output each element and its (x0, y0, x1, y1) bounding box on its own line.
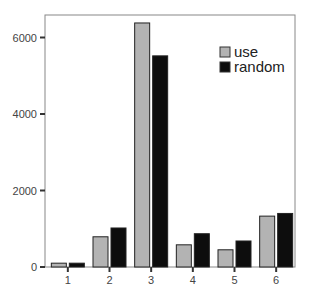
x-tick-label: 1 (65, 274, 71, 286)
x-tick-label: 2 (106, 274, 112, 286)
x-tick-label: 6 (273, 274, 279, 286)
x-tick-label: 4 (190, 274, 196, 286)
bar-random-6 (278, 213, 293, 267)
legend-swatch-random (220, 62, 230, 72)
bar-random-3 (153, 56, 168, 267)
x-tick-label: 5 (231, 274, 237, 286)
bar-use-2 (93, 237, 108, 267)
bar-use-5 (218, 250, 233, 267)
bar-random-2 (111, 228, 126, 267)
legend-label-random: random (234, 58, 285, 75)
bar-use-6 (260, 216, 275, 267)
bar-use-1 (51, 263, 66, 267)
legend-swatch-use (220, 47, 230, 57)
y-axis: 0200040006000 (13, 32, 45, 274)
bar-random-4 (194, 234, 209, 267)
y-tick-label: 2000 (13, 185, 37, 197)
bar-use-4 (176, 245, 191, 267)
bar-use-3 (135, 23, 150, 267)
y-tick-label: 6000 (13, 32, 37, 44)
bar-random-1 (69, 263, 84, 267)
y-tick-label: 4000 (13, 108, 37, 120)
bar-chart: 0200040006000 123456 userandom (0, 0, 310, 298)
x-axis: 123456 (65, 267, 279, 286)
y-tick-label: 0 (31, 261, 37, 273)
bar-random-5 (236, 241, 251, 267)
x-tick-label: 3 (148, 274, 154, 286)
